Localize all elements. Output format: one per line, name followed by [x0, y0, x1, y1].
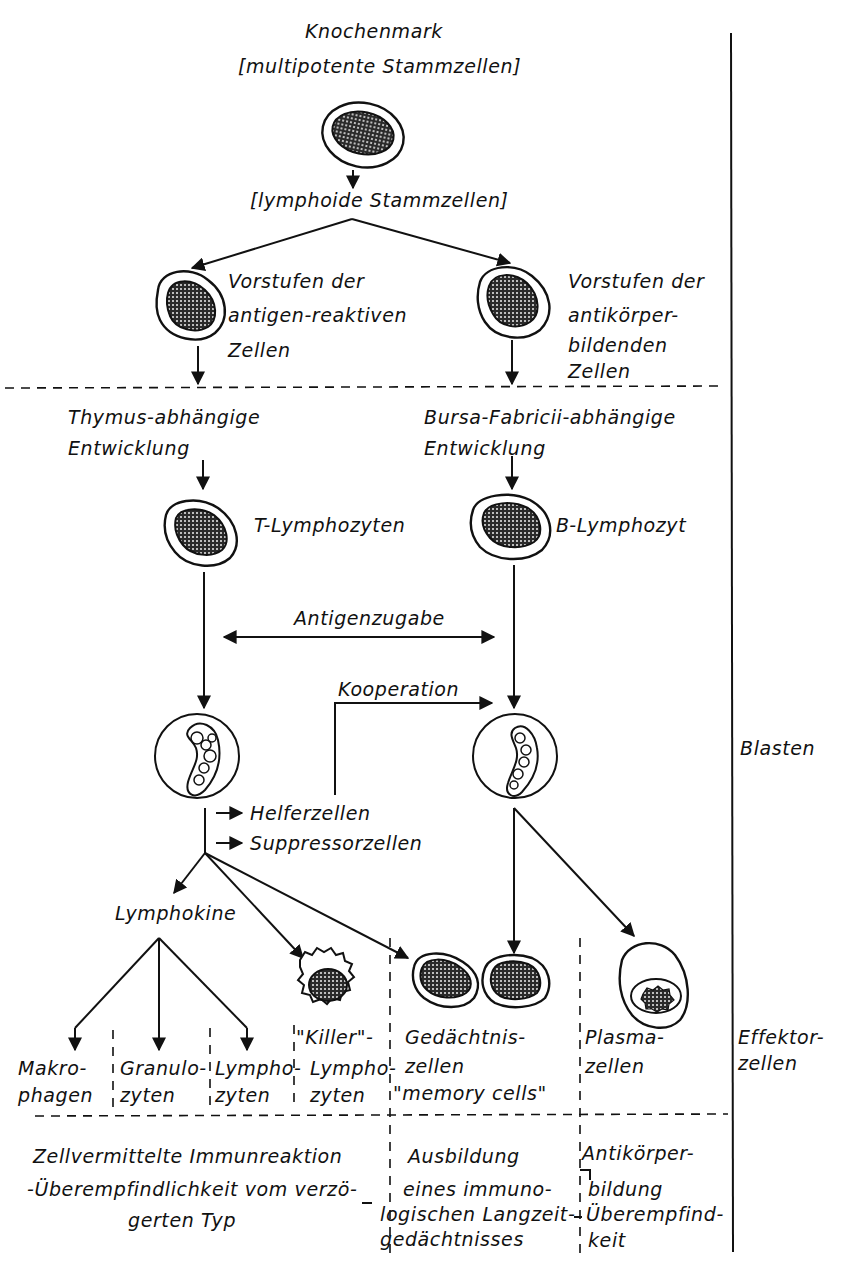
thymus-dev-line2: Entwicklung	[68, 437, 190, 459]
killer-line1: "Killer"-	[296, 1026, 374, 1048]
right-precursor-line2: antikörper-	[568, 304, 679, 326]
memory-line2: zellen	[404, 1055, 465, 1077]
left-precursor-line1: Vorstufen der	[228, 270, 365, 292]
cellular-outcome-line1: Zellvermittelte Immunreaktion	[32, 1145, 343, 1167]
memory-outcome-line3: logischen Langzeit-	[380, 1203, 575, 1225]
b-blast-cell-icon	[473, 714, 557, 798]
memory-outcome-line2: eines immuno-	[403, 1178, 552, 1200]
divider-effector	[35, 1114, 728, 1116]
t-lymphocyte-label: T-Lymphozyten	[254, 514, 405, 536]
cellular-outcome-line3: gerten Typ	[128, 1209, 236, 1231]
lymphokine-branch-left	[75, 938, 159, 1028]
suppressor-cells-label: Suppressorzellen	[250, 832, 423, 854]
lymphokine-branch-right	[159, 938, 247, 1028]
memory-line3: "memory cells"	[393, 1082, 547, 1104]
memory-outcome-line4: gedächtnisses	[380, 1228, 524, 1250]
antibody-outcome-line4: keit	[588, 1229, 627, 1251]
killer-line3: zyten	[309, 1084, 365, 1106]
plasma-line2: zellen	[584, 1055, 645, 1077]
killer-line2: Lympho-	[310, 1057, 396, 1079]
stem-cell-icon	[316, 95, 410, 175]
cooperation-label: Kooperation	[338, 678, 459, 700]
antibody-outcome-line3: Überempfind-	[586, 1203, 724, 1225]
antibody-outcome-line2: bildung	[588, 1178, 663, 1200]
plasma-line1: Plasma-	[585, 1026, 665, 1048]
b-lymphocyte-icon	[471, 495, 550, 559]
arrow-b-to-plasma	[514, 808, 634, 936]
macrophages-line2: phagen	[17, 1084, 93, 1106]
memory-outcome-line1: Ausbildung	[406, 1145, 520, 1167]
cooperation-arrow	[335, 703, 492, 795]
left-precursor-line2: antigen-reaktiven	[228, 304, 407, 326]
lymphocytes-line1: Lympho-	[215, 1057, 301, 1079]
killer-cell-icon	[298, 948, 354, 1004]
lymphocytes-line2: zyten	[214, 1084, 270, 1106]
macrophages-line1: Makro-	[18, 1057, 87, 1079]
arrow-to-right-precursor	[352, 219, 510, 263]
right-precursor-cell-icon	[478, 267, 550, 337]
thymus-dev-line1: Thymus-abhängige	[68, 406, 260, 428]
stage-blasten: Blasten	[740, 737, 815, 759]
immune-cell-diagram: Knochenmark [multipotente Stammzellen] […	[0, 0, 850, 1270]
antibody-outcome-line1: Antikörper-	[580, 1142, 694, 1164]
bursa-dev-line1: Bursa-Fabricii-abhängige	[424, 406, 676, 428]
granulocytes-line1: Granulo-	[120, 1057, 207, 1079]
arrow-to-left-precursor	[192, 219, 352, 268]
left-precursor-cell-icon	[156, 271, 224, 339]
cellular-outcome-line2: -Überempfindlichkeit vom verzö-	[27, 1178, 357, 1200]
b-lymphocyte-label: B-Lymphozyt	[556, 514, 687, 536]
stage-effektor-line1: Effektor-	[738, 1026, 824, 1048]
divider-precursor	[5, 386, 725, 388]
stage-effektor-line2: zellen	[737, 1052, 798, 1074]
stage-divider-line	[731, 33, 733, 1252]
title-knochenmark: Knochenmark	[305, 20, 443, 42]
granulocytes-line2: zyten	[119, 1084, 175, 1106]
subtitle-multipotent: [multipotente Stammzellen]	[238, 55, 521, 77]
bursa-dev-line2: Entwicklung	[424, 437, 546, 459]
right-precursor-line1: Vorstufen der	[568, 270, 705, 292]
lymphokine-label: Lymphokine	[115, 902, 236, 924]
memory-line1: Gedächtnis-	[405, 1026, 526, 1048]
memory-cell-2-icon	[482, 955, 549, 1007]
left-precursor-line3: Zellen	[227, 339, 291, 361]
arrow-to-lymphokine	[174, 853, 205, 893]
helper-cells-label: Helferzellen	[250, 802, 371, 824]
right-precursor-line4: Zellen	[567, 360, 631, 382]
right-precursor-line3: bildenden	[568, 334, 668, 356]
memory-cell-1-icon	[413, 954, 478, 1007]
lymphoid-stem-cells: [lymphoide Stammzellen]	[250, 189, 509, 211]
plasma-cell-icon	[620, 943, 688, 1028]
antigen-label: Antigenzugabe	[292, 607, 445, 629]
t-lymphocyte-icon	[165, 501, 237, 566]
t-blast-cell-icon	[155, 714, 239, 798]
